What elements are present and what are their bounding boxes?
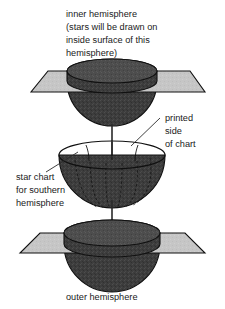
diagram-canvas: inner hemisphere (stars will be drawn on… [0, 0, 225, 309]
star-chart-label: star chart for southern hemisphere [16, 172, 65, 208]
outer-hemisphere-label: outer hemisphere [66, 292, 138, 302]
printed-side-label-line-0: printed [165, 113, 193, 123]
printed-side-label-line-2: of chart [165, 139, 196, 149]
star-chart-label-line-1: for southern [16, 185, 65, 195]
inner-hemisphere-label-line-3: hemisphere) [66, 48, 117, 58]
printed-side-label-line-1: side [165, 126, 182, 136]
printed-side-label: printed side of chart [165, 113, 196, 149]
outer-hemisphere-assembly [20, 220, 205, 292]
inner-hemisphere-rim [67, 59, 157, 83]
inner-hemisphere-label-line-0: inner hemisphere [66, 9, 137, 19]
inner-hemisphere-label-line-1: (stars will be drawn on [66, 22, 157, 32]
outer-hemisphere-rim [64, 220, 160, 246]
star-chart-label-line-0: star chart [16, 172, 55, 182]
star-chart-label-line-2: hemisphere [16, 198, 64, 208]
printed-side-leader [131, 118, 160, 146]
inner-hemisphere-label: inner hemisphere (stars will be drawn on… [66, 9, 157, 58]
inner-hemisphere-label-line-2: inside surface of this [66, 35, 150, 45]
star-chart-hemisphere-assembly [59, 141, 165, 208]
